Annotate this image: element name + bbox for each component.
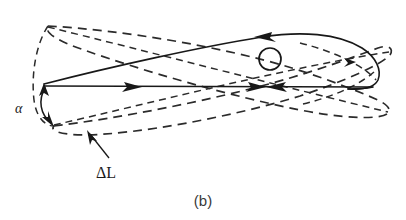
dashed-leading-edge-loop bbox=[33, 26, 54, 126]
figure-caption: (b) bbox=[194, 192, 212, 209]
dashed-outline-group bbox=[33, 26, 391, 135]
angle-arrow-head-top bbox=[39, 83, 49, 96]
dashed-chord-upper bbox=[48, 27, 388, 112]
direction-arrow-upper bbox=[254, 32, 276, 42]
leader-arrow-head bbox=[87, 130, 97, 145]
direction-arrow-chord-left bbox=[122, 82, 142, 92]
delta-length-label: ΔL bbox=[96, 164, 116, 181]
figure-container: α ΔL (b) bbox=[0, 0, 406, 220]
figure-drawing: α ΔL (b) bbox=[0, 0, 406, 220]
airfoil-chord-line bbox=[44, 86, 372, 87]
angle-label: α bbox=[15, 101, 23, 116]
